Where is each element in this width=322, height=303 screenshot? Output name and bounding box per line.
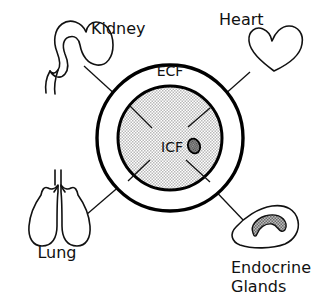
icf-compartment xyxy=(118,86,222,190)
heart-label: Heart xyxy=(219,10,264,29)
lung-icon xyxy=(29,170,90,246)
heart-icon xyxy=(249,26,302,71)
endocrine-label-line1: Endocrine xyxy=(231,258,311,277)
kidney-label: Kidney xyxy=(91,19,146,38)
ecf-label: ECF xyxy=(157,63,184,79)
diagram-canvas: ECF ICF Kidney Heart Lung Endocrine Glan… xyxy=(0,0,322,303)
lung-label: Lung xyxy=(37,243,76,262)
icf-label: ICF xyxy=(161,139,183,155)
adrenal-gland-icon xyxy=(232,206,298,248)
endocrine-label-line2: Glands xyxy=(231,277,286,296)
